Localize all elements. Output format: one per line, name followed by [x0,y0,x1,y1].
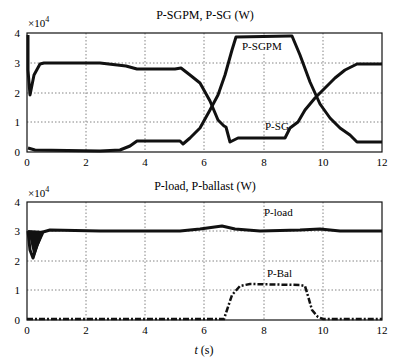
svg-text:0: 0 [24,324,30,336]
label-p-sg: P-SG [265,120,289,132]
svg-text:10: 10 [318,324,330,336]
top-plot-title: P-SGPM, P-SG (W) [156,8,254,22]
top-x-ticks: 0 2 4 6 8 10 12 [24,156,387,168]
svg-text:1: 1 [15,116,21,128]
bottom-x-ticks: 0 2 4 6 8 10 12 [24,324,387,336]
svg-text:8: 8 [261,324,267,336]
label-p-sgpm: P-SGPM [242,40,282,52]
bottom-plot-title: P-load, P-ballast (W) [154,179,256,193]
svg-text:4: 4 [142,324,148,336]
svg-text:6: 6 [201,156,207,168]
p-bal-curve [27,284,382,319]
bottom-x-label: t (s) [194,343,213,357]
top-plot: P-SGPM, P-SG (W) ×104 0 1 2 3 4 0 2 4 6 [15,8,388,168]
label-p-bal: P-Bal [267,267,292,279]
svg-text:3: 3 [15,225,21,237]
svg-text:2: 2 [83,156,89,168]
svg-text:0: 0 [24,156,30,168]
svg-text:12: 12 [377,156,388,168]
svg-text:8: 8 [261,156,267,168]
svg-text:2: 2 [15,87,21,99]
bottom-plot: P-load, P-ballast (W) ×104 0 1 2 3 4 0 2… [15,179,388,357]
bottom-y-ticks: 0 1 2 3 4 [15,196,21,326]
svg-text:4: 4 [142,156,148,168]
top-y-multiplier: ×104 [28,15,49,29]
bottom-y-multiplier: ×104 [28,185,49,199]
svg-text:2: 2 [83,324,89,336]
svg-text:0: 0 [15,314,21,326]
svg-text:0: 0 [15,146,21,158]
svg-text:6: 6 [201,324,207,336]
svg-text:3: 3 [15,57,21,69]
svg-text:4: 4 [15,196,21,208]
bottom-grid [27,202,382,320]
svg-text:4: 4 [15,27,21,39]
p-sg-curve [28,35,382,142]
svg-text:1: 1 [15,284,21,296]
p-load-curve [28,226,382,258]
svg-text:10: 10 [318,156,330,168]
svg-text:12: 12 [377,324,388,336]
label-p-load: P-load [264,206,293,218]
svg-text:2: 2 [15,255,21,267]
figure: P-SGPM, P-SG (W) ×104 0 1 2 3 4 0 2 4 6 [0,0,401,364]
top-y-ticks: 0 1 2 3 4 [15,27,21,158]
